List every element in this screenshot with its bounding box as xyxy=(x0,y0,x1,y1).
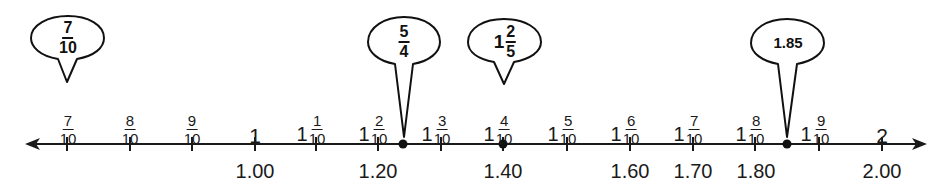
denominator: 10 xyxy=(371,130,388,146)
denominator: 10 xyxy=(434,130,451,146)
denominator: 10 xyxy=(122,130,139,146)
whole-part: 1 xyxy=(494,31,505,52)
denominator: 5 xyxy=(506,43,515,60)
denominator: 10 xyxy=(309,130,326,146)
numerator: 2 xyxy=(374,113,384,130)
numerator: 9 xyxy=(187,113,197,130)
callout-label-1-2-5: 125 xyxy=(494,24,516,60)
numerator: 7 xyxy=(63,20,74,39)
decimal-label-1-40: 1.40 xyxy=(484,160,523,183)
denominator: 10 xyxy=(59,39,77,56)
decimal-label-1-80: 1.80 xyxy=(737,160,776,183)
tick-label-2: 2 xyxy=(876,112,888,146)
numerator: 7 xyxy=(689,113,699,130)
numerator: 6 xyxy=(626,113,636,130)
numerator: 4 xyxy=(499,113,509,130)
numerator: 2 xyxy=(505,24,516,43)
denominator: 10 xyxy=(813,130,830,146)
integer-value: 1 xyxy=(249,125,261,146)
numerator: 1 xyxy=(312,113,322,130)
denominator: 4 xyxy=(400,43,409,60)
whole-part: 1 xyxy=(736,123,747,146)
whole-part: 1 xyxy=(484,123,495,146)
decimal-label-1-20: 1.20 xyxy=(359,160,398,183)
numerator: 8 xyxy=(125,113,135,130)
whole-part: 1 xyxy=(297,123,308,146)
whole-part: 1 xyxy=(674,123,685,146)
denominator: 10 xyxy=(184,130,201,146)
denominator: 10 xyxy=(623,130,640,146)
denominator: 10 xyxy=(686,130,703,146)
callout-label-1-85: 1.85 xyxy=(773,34,802,52)
decimal-label-2-00: 2.00 xyxy=(863,160,902,183)
denominator: 10 xyxy=(748,130,765,146)
tick-label-1-4: 1410 xyxy=(484,112,513,146)
tick-label-1-6: 1610 xyxy=(611,112,640,146)
numerator: 8 xyxy=(751,113,761,130)
decimal-label-1-00: 1.00 xyxy=(236,160,275,183)
whole-part: 1 xyxy=(422,123,433,146)
decimal-value: 1.85 xyxy=(773,34,802,51)
point-marker xyxy=(399,140,408,149)
tick-label-1-1: 1110 xyxy=(297,112,326,146)
tick-label-1-2: 1210 xyxy=(359,112,388,146)
tick-label-0-7: 710 xyxy=(60,112,77,146)
integer-value: 2 xyxy=(876,125,888,146)
numerator: 5 xyxy=(399,24,410,43)
numerator: 9 xyxy=(816,113,826,130)
denominator: 10 xyxy=(60,130,77,146)
point-marker xyxy=(783,140,792,149)
tick-label-0-9: 910 xyxy=(184,112,201,146)
numerator: 7 xyxy=(63,113,73,130)
numerator: 3 xyxy=(437,113,447,130)
tick-label-1-5: 1510 xyxy=(548,112,577,146)
whole-part: 1 xyxy=(801,123,812,146)
denominator: 10 xyxy=(560,130,577,146)
whole-part: 1 xyxy=(548,123,559,146)
decimal-label-1-60: 1.60 xyxy=(611,160,650,183)
denominator: 10 xyxy=(496,130,513,146)
tick-label-1-7: 1710 xyxy=(674,112,703,146)
whole-part: 1 xyxy=(359,123,370,146)
callout-label-7-10: 710 xyxy=(59,20,77,56)
tick-label-1: 1 xyxy=(249,112,261,146)
decimal-label-1-70: 1.70 xyxy=(674,160,713,183)
tick-label-1-9: 1910 xyxy=(801,112,830,146)
callout-label-5-4: 54 xyxy=(399,24,410,60)
numerator: 5 xyxy=(563,113,573,130)
tick-label-1-3: 1310 xyxy=(422,112,451,146)
tick-label-0-8: 810 xyxy=(122,112,139,146)
tick-label-1-8: 1810 xyxy=(736,112,765,146)
number-line-graphic xyxy=(0,0,943,193)
whole-part: 1 xyxy=(611,123,622,146)
